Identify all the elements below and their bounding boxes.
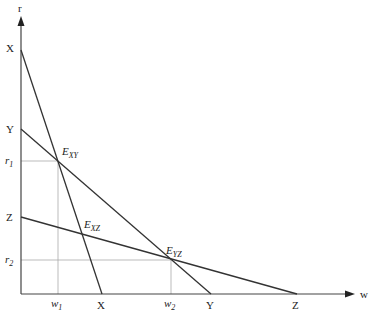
x-intercept-y-label: Y (206, 299, 214, 311)
point-exy-label: EXY (61, 145, 80, 160)
y-axis-arrow-icon (18, 16, 25, 26)
y-intercept-z-label: Z (6, 211, 13, 223)
x-intercept-x-label: X (97, 299, 105, 311)
point-exz-label: EXZ (83, 218, 101, 233)
line-z (21, 217, 297, 294)
x-axis-label: w (360, 288, 368, 300)
line-x (21, 50, 102, 294)
line-y (21, 129, 211, 294)
factor-price-diagram: r w X Y Z X Y Z r1 r2 w1 w2 EXY EXZ EYZ (0, 0, 370, 316)
y-intercept-x-label: X (6, 42, 14, 54)
iso-lines (21, 50, 297, 294)
tick-w2: w2 (164, 297, 175, 312)
x-axis-arrow-icon (345, 291, 355, 298)
tick-r1: r1 (5, 154, 13, 169)
tick-r2: r2 (5, 253, 13, 268)
tick-w1: w1 (51, 297, 62, 312)
y-axis-label: r (18, 2, 22, 14)
x-intercept-z-label: Z (292, 299, 299, 311)
y-intercept-y-label: Y (6, 123, 14, 135)
